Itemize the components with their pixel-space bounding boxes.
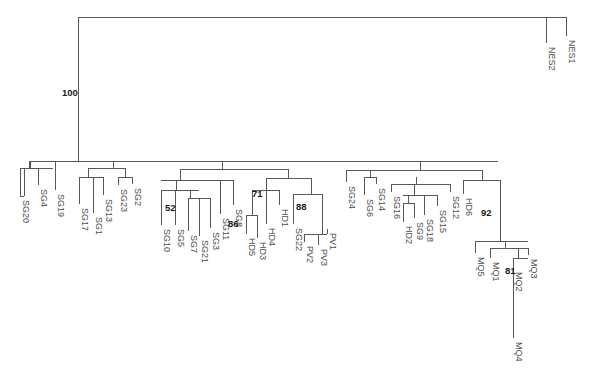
leaf-label-NES2: NES2	[547, 47, 557, 71]
leaf-label-SG20: SG20	[21, 200, 31, 223]
leaf-label-SG5: SG5	[176, 229, 186, 247]
leaf-label-SG18: SG18	[425, 219, 435, 242]
leaf-label-MQ1: MQ1	[491, 262, 501, 282]
leaf-label-SG10: SG10	[162, 229, 172, 252]
leaf-label-MQ4: MQ4	[514, 342, 524, 362]
leaf-label-SG17: SG17	[80, 208, 90, 231]
leaf-label-MQ3: MQ3	[529, 259, 539, 279]
bootstrap-value-92: 92	[481, 207, 492, 218]
bootstrap-value-88: 88	[296, 201, 307, 212]
leaf-label-HD1: HD1	[280, 209, 290, 227]
leaf-label-SG24: SG24	[347, 186, 357, 209]
leaf-label-SG15: SG15	[438, 210, 448, 233]
leaf-label-SG21: SG21	[200, 240, 210, 263]
bootstrap-value-52: 52	[165, 202, 176, 213]
leaf-label-SG19: SG19	[56, 194, 66, 217]
bootstrap-value-86: 86	[228, 218, 239, 229]
leaf-label-SG23: SG23	[119, 189, 129, 212]
bootstrap-value-71: 71	[252, 188, 263, 199]
leaf-label-SG9: SG9	[415, 222, 425, 240]
leaf-label-SG4: SG4	[39, 189, 49, 207]
leaf-label-HD2: HD2	[404, 226, 414, 244]
leaf-label-PV3: PV3	[319, 249, 329, 266]
leaf-label-SG6: SG6	[365, 199, 375, 217]
leaf-label-PV1: PV1	[328, 233, 338, 250]
branch-lines	[20, 17, 566, 338]
leaf-label-HD6: HD6	[464, 198, 474, 216]
leaf-label-HD3: HD3	[258, 242, 268, 260]
leaf-label-SG1: SG1	[94, 217, 104, 235]
leaf-label-PV2: PV2	[305, 246, 315, 263]
leaf-label-SG13: SG13	[104, 199, 114, 222]
leaf-label-MQ5: MQ5	[476, 257, 486, 277]
leaf-label-SG16: SG16	[392, 196, 402, 219]
leaf-label-HD4: HD4	[267, 228, 277, 246]
leaf-label-SG7: SG7	[189, 235, 199, 253]
phylogenetic-tree-figure: SG20 SG4 SG19 SG17 SG1 SG13 SG23 SG2 SG1…	[0, 0, 589, 392]
leaf-label-SG22: SG22	[294, 228, 304, 251]
bootstrap-labels: 100 52 86 71 88 92 81	[62, 87, 516, 276]
leaf-label-SG2: SG2	[133, 188, 143, 206]
leaf-label-SG14: SG14	[377, 188, 387, 211]
bootstrap-value-81: 81	[505, 265, 516, 276]
bootstrap-value-100: 100	[62, 87, 78, 98]
leaf-label-SG12: SG12	[451, 196, 461, 219]
leaf-label-SG3: SG3	[211, 232, 221, 250]
leaf-label-HD5: HD5	[247, 238, 257, 256]
tree-canvas: SG20 SG4 SG19 SG17 SG1 SG13 SG23 SG2 SG1…	[0, 0, 589, 392]
leaf-label-NES1: NES1	[567, 40, 577, 64]
